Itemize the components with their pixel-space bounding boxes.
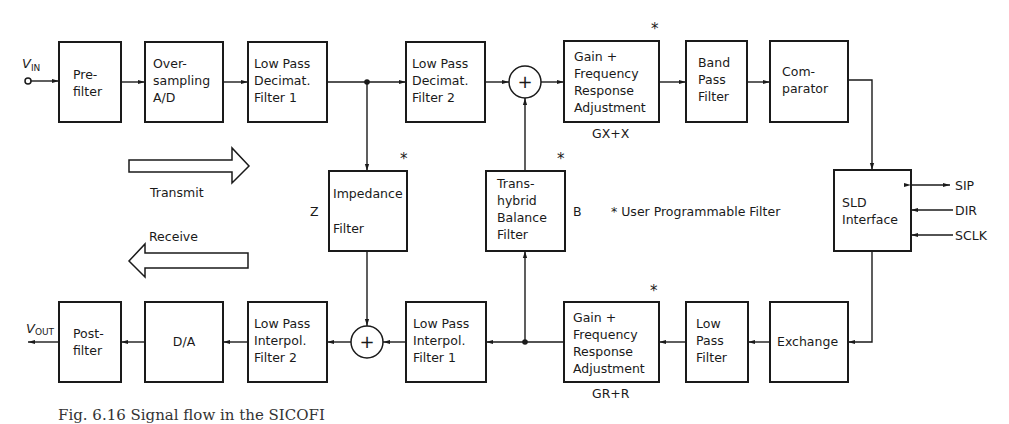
bandpass-line3: Filter <box>698 89 730 104</box>
gain-tx-line2: Frequency <box>574 66 639 81</box>
receive-label: Receive <box>149 229 198 244</box>
comparator-line1: Com- <box>782 64 815 79</box>
impedance-filter-block[interactable]: Impedance Filter <box>329 171 407 251</box>
gr-r-label: GR+R <box>592 386 630 401</box>
lpif2-line3: Filter 2 <box>254 350 297 365</box>
exchange-label: Exchange <box>777 334 838 349</box>
vin-label: VIN <box>22 56 40 73</box>
exchange-block[interactable]: Exchange <box>770 302 848 382</box>
gain-frequency-rx-block[interactable]: Gain + Frequency Response Adjustment <box>564 302 659 382</box>
pin-dir: DIR <box>955 203 977 218</box>
transhybrid-line3: Balance <box>497 210 547 225</box>
lpif1-line1: Low Pass <box>413 316 469 331</box>
gain-tx-line3: Response <box>574 83 634 98</box>
lpif1-line2: Interpol. <box>413 333 465 348</box>
gain-tx-line4: Adjustment <box>574 100 646 115</box>
lpdf1-label-line2: Decimat. <box>254 73 310 88</box>
receive-arrow-icon <box>129 244 248 277</box>
programmable-star-icon: * <box>650 282 658 300</box>
lp-interpol-filter-1-block[interactable]: Low Pass Interpol. Filter 1 <box>406 302 486 382</box>
gain-frequency-tx-block[interactable]: Gain + Frequency Response Adjustment <box>564 41 659 122</box>
lp-decimat-filter-1-block[interactable]: Low Pass Decimat. Filter 1 <box>248 42 327 122</box>
programmable-star-icon: * <box>651 20 659 38</box>
vin-terminal: VIN <box>22 56 59 84</box>
vout-label: VOUT <box>26 321 55 337</box>
band-pass-filter-block[interactable]: Band Pass Filter <box>686 41 747 122</box>
sld-line1: SLD <box>842 195 867 210</box>
lpif2-line2: Interpol. <box>254 333 306 348</box>
da-converter-block[interactable]: D/A <box>145 302 223 382</box>
lowpass-line3: Filter <box>696 350 728 365</box>
transmit-label: Transmit <box>149 185 204 200</box>
lpdf2-label-line2: Decimat. <box>412 73 468 88</box>
figure-caption: Fig. 6.16 Signal flow in the SICOFI <box>58 406 325 424</box>
bandpass-line1: Band <box>698 55 730 70</box>
impedance-line1: Impedance <box>333 186 403 201</box>
gx-x-label: GX+X <box>592 126 630 141</box>
prefilter-block[interactable]: Pre- filter <box>59 42 121 122</box>
gain-rx-line3: Response <box>573 344 633 359</box>
postfilter-line2: filter <box>73 343 103 358</box>
transhybrid-line1: Trans- <box>496 176 535 191</box>
summing-junction-rx: + <box>351 326 383 358</box>
postfilter-block[interactable]: Post- filter <box>59 302 121 382</box>
oversampling-ad-block[interactable]: Over- sampling A/D <box>145 42 223 122</box>
da-label: D/A <box>173 334 196 349</box>
gain-rx-line4: Adjustment <box>573 361 645 376</box>
lpif2-line1: Low Pass <box>254 316 310 331</box>
lpif1-line3: Filter 1 <box>413 350 456 365</box>
b-label: B <box>573 204 582 219</box>
lp-interpol-filter-2-block[interactable]: Low Pass Interpol. Filter 2 <box>248 302 327 382</box>
lpdf2-label-line3: Filter 2 <box>412 90 455 105</box>
ad-label-line3: A/D <box>153 90 175 105</box>
impedance-line2: Filter <box>333 221 365 236</box>
postfilter-line1: Post- <box>73 326 104 341</box>
input-terminal-icon <box>25 78 31 84</box>
transhybrid-line4: Filter <box>497 227 529 242</box>
programmable-star-icon: * <box>400 150 408 168</box>
ad-label-line1: Over- <box>153 56 187 71</box>
lpdf1-label-line1: Low Pass <box>254 56 310 71</box>
wire-sld-to-exchange <box>848 251 872 342</box>
wire-comparator-to-sld <box>848 80 872 170</box>
low-pass-filter-block[interactable]: Low Pass Filter <box>686 302 748 382</box>
transmit-arrow: Transmit <box>129 148 249 200</box>
sld-line2: Interface <box>842 212 898 227</box>
gain-tx-line1: Gain + <box>574 49 617 64</box>
lpdf2-label-line1: Low Pass <box>412 56 468 71</box>
prefilter-label-line1: Pre- <box>73 67 97 82</box>
gain-rx-line1: Gain + <box>573 310 616 325</box>
lp-decimat-filter-2-block[interactable]: Low Pass Decimat. Filter 2 <box>406 42 485 122</box>
receive-arrow: Receive <box>129 229 248 277</box>
sld-interface-block[interactable]: SLD Interface <box>834 170 911 251</box>
programmable-star-icon: * <box>557 150 565 168</box>
lpdf1-label-line3: Filter 1 <box>254 90 297 105</box>
lowpass-line1: Low <box>696 316 721 331</box>
bandpass-line2: Pass <box>698 72 726 87</box>
plus-icon: + <box>359 331 374 352</box>
comparator-line2: parator <box>782 81 829 96</box>
legend-user-programmable: * User Programmable Filter <box>611 204 781 219</box>
pin-sip: SIP <box>955 178 975 193</box>
ad-label-line2: sampling <box>153 73 210 88</box>
lowpass-line2: Pass <box>696 333 724 348</box>
sld-pins: SIP DIR SCLK <box>911 178 988 243</box>
comparator-block[interactable]: Com- parator <box>770 41 848 122</box>
junction-dot-rx <box>522 339 528 345</box>
transmit-arrow-icon <box>129 148 249 183</box>
gain-rx-line2: Frequency <box>573 327 638 342</box>
prefilter-label-line2: filter <box>73 84 103 99</box>
z-label: Z <box>310 204 319 219</box>
transhybrid-balance-filter-block[interactable]: Trans- hybrid Balance Filter <box>486 171 565 251</box>
plus-icon: + <box>517 71 532 92</box>
transhybrid-line2: hybrid <box>497 193 537 208</box>
summing-junction-tx: + <box>509 66 541 98</box>
pin-sclk: SCLK <box>955 228 988 243</box>
